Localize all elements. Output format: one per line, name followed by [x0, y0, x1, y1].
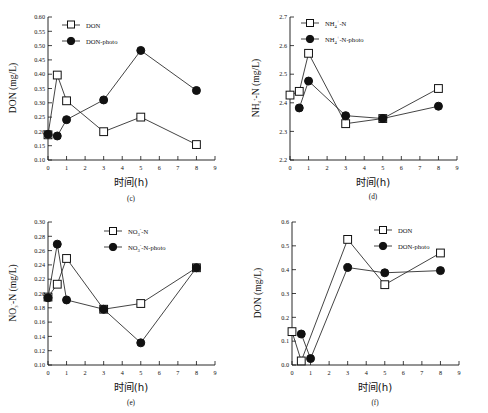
data-point-open-square [305, 49, 313, 57]
panel-f-ytick-label: 0.0 [281, 361, 289, 368]
panel-e-xtick-label: 3 [102, 369, 105, 376]
data-point-open-square [295, 87, 303, 95]
data-point-filled-circle [436, 267, 444, 275]
panel-f-xtick-label: 9 [457, 369, 460, 376]
panel-c-xtick-label: 7 [176, 164, 179, 171]
data-point-open-square [381, 281, 389, 289]
panel-c-id: (c) [127, 195, 136, 203]
panel-d-legend-label-2: NH4+-N-photo [325, 35, 364, 45]
data-point-filled-circle [53, 240, 61, 248]
legend-marker-open-square [307, 20, 314, 27]
panel-c: 0.100.150.200.250.300.350.400.450.500.55… [0, 0, 244, 207]
series-line-DON [292, 239, 440, 361]
panel-c-xtick-label: 3 [102, 164, 105, 171]
legend-d2-base: NH [325, 36, 335, 43]
panel-e-ytick-label: 0.10 [34, 361, 45, 368]
data-point-filled-circle [295, 104, 303, 112]
data-point-filled-circle [63, 296, 71, 304]
panel-c-ytick-label: 0.15 [34, 142, 45, 149]
panel-c-x-axis-label: 时间(h) [114, 176, 148, 188]
data-point-open-square [137, 113, 145, 121]
legend-d1-tail: -N [339, 20, 346, 27]
panel-d-ylabel-sub: 4 [257, 100, 262, 103]
data-point-filled-circle [344, 264, 352, 272]
legend-d2-sub: 4 [335, 40, 338, 45]
panel-c-ytick-label: 0.60 [34, 13, 45, 20]
legend-e2-sub: 3 [138, 248, 141, 253]
panel-c-xtick-label: 2 [84, 164, 87, 171]
series-line-DON [48, 75, 196, 145]
panel-e-id: (e) [127, 399, 136, 407]
panel-e-series [44, 240, 200, 347]
panel-c-x-ticks: 0123456789 [46, 156, 216, 171]
panel-d-ytick-label: 2.4 [279, 99, 287, 106]
panel-e-legend: NO3--N NO3--N-photo [104, 227, 166, 253]
panel-f-y-axis-label: DON (mg/L) [252, 268, 264, 318]
svg-text:NH4+-N (mg/L): NH4+-N (mg/L) [250, 59, 262, 117]
panel-f-ytick-label: 0.6 [281, 218, 289, 225]
panel-d-axes [290, 17, 457, 160]
panel-e-legend-label-1: NO3--N [128, 227, 149, 237]
panel-d-ytick-label: 2.6 [279, 42, 287, 49]
series-line-NH4+-N [290, 53, 438, 123]
panel-c-ytick-label: 0.30 [34, 99, 45, 106]
panel-e-plot: 0.100.120.140.160.180.200.220.240.260.28… [0, 207, 244, 413]
panel-d-xtick-label: 4 [363, 164, 366, 171]
series-line-DON-photo [48, 50, 196, 136]
panel-d-ytick-label: 2.2 [279, 156, 287, 163]
panel-e-ytick-label: 0.12 [34, 347, 45, 354]
panel-e-ylabel-tail: -N (mg/L) [7, 264, 19, 304]
data-point-filled-circle [192, 264, 200, 272]
panel-e-xtick-label: 9 [213, 369, 216, 376]
panel-e-xtick-label: 4 [121, 369, 124, 376]
legend-e1-sub: 3 [138, 232, 141, 237]
panel-e-xtick-label: 6 [158, 369, 161, 376]
panel-f: 0.00.10.20.30.40.50.6 0123456789 DON (mg… [244, 207, 488, 413]
panel-f-plot: 0.00.10.20.30.40.50.6 0123456789 DON (mg… [244, 207, 488, 413]
data-point-filled-circle [381, 269, 389, 277]
legend-marker-filled-circle [306, 35, 313, 42]
panel-d-series [286, 49, 442, 127]
data-point-open-square [63, 255, 71, 263]
panel-e-y-axis-label: NO3--N (mg/L) [7, 264, 19, 321]
data-point-open-square [137, 300, 145, 308]
data-point-open-square [100, 128, 108, 136]
legend-d2-tail: -N-photo [339, 36, 364, 43]
data-point-open-square [53, 71, 61, 79]
panel-f-ytick-label: 0.3 [281, 290, 289, 297]
panel-e-ylabel-sub: 3 [14, 305, 19, 308]
data-point-filled-circle [44, 294, 52, 302]
series-line-DON-photo [301, 268, 440, 359]
panel-c-legend-label-2: DON-photo [86, 38, 118, 45]
panel-d-xtick-label: 2 [326, 164, 329, 171]
data-point-filled-circle [342, 112, 350, 120]
panel-e-xtick-label: 0 [46, 369, 49, 376]
data-point-open-square [63, 97, 71, 105]
panel-e-xtick-label: 8 [195, 369, 198, 376]
panel-c-ytick-label: 0.40 [34, 70, 45, 77]
data-point-filled-circle [305, 77, 313, 85]
data-point-open-square [437, 249, 445, 257]
panel-e-ylabel-base: NO [7, 308, 18, 322]
panel-c-ytick-label: 0.20 [34, 128, 45, 135]
legend-marker-filled-circle [379, 242, 386, 249]
data-point-filled-circle [137, 339, 145, 347]
data-point-filled-circle [100, 96, 108, 104]
panel-c-y-axis-label: DON (mg/L) [7, 63, 19, 113]
data-point-filled-circle [192, 87, 200, 95]
panel-c-ytick-label: 0.35 [34, 85, 45, 92]
data-point-filled-circle [307, 355, 315, 363]
panel-d-ylabel-tail: -N (mg/L) [250, 59, 262, 99]
svg-text:NO3--N (mg/L): NO3--N (mg/L) [7, 264, 19, 321]
panel-e: 0.100.120.140.160.180.200.220.240.260.28… [0, 207, 244, 413]
panel-f-xtick-label: 3 [346, 369, 349, 376]
data-point-open-square [193, 141, 201, 149]
panel-d-legend: NH4+-N NH4+-N-photo [301, 19, 364, 45]
panel-d-ytick-label: 2.3 [279, 128, 287, 135]
panel-e-xtick-label: 1 [65, 369, 68, 376]
panel-e-ytick-label: 0.16 [34, 318, 45, 325]
legend-e2-tail: -N-photo [141, 244, 166, 251]
data-point-filled-circle [137, 46, 145, 54]
panel-e-xtick-label: 5 [139, 369, 142, 376]
panel-c-legend: DON DON-photo [62, 21, 118, 45]
